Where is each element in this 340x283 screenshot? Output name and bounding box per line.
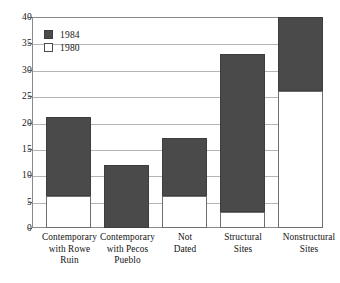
bar-segment-1984[interactable]: [46, 117, 91, 196]
bar-group-contemporary-pecos-pueblo[interactable]: [104, 165, 149, 228]
bar-segment-1980[interactable]: [278, 91, 323, 228]
bar-segment-1980[interactable]: [162, 196, 207, 228]
bar-segment-1980[interactable]: [46, 196, 91, 228]
legend-label-1980: 1980: [60, 43, 80, 53]
legend-label-1984: 1984: [60, 30, 80, 40]
legend-item-1980[interactable]: 1980: [44, 42, 80, 53]
bar-segment-1984[interactable]: [162, 138, 207, 196]
bar-group-not-dated[interactable]: [162, 138, 207, 228]
legend-swatch-1984-icon: [44, 30, 53, 39]
legend-swatch-1980-icon: [44, 43, 53, 52]
bar-segment-1980[interactable]: [220, 212, 265, 228]
y-tick-mark-0: [28, 228, 32, 229]
x-label-not-dated: Not Dated: [154, 232, 216, 255]
bar-group-structural-sites[interactable]: [220, 54, 265, 228]
bar-segment-1984[interactable]: [278, 17, 323, 91]
x-label-structural-sites: Structural Sites: [210, 232, 276, 255]
y-axis: 40 35 30 25 20 15 10 5 0: [0, 17, 32, 228]
bar-segment-1984[interactable]: [104, 165, 149, 228]
bar-segment-1984[interactable]: [220, 54, 265, 212]
legend: 1984 1980: [44, 29, 80, 53]
x-axis-labels: Contemporary with Rowe Ruin Contemporary…: [32, 232, 322, 280]
legend-item-1984[interactable]: 1984: [44, 29, 80, 40]
x-label-nonstructural-sites: Nonstructural Sites: [268, 232, 340, 255]
bar-group-nonstructural-sites[interactable]: [278, 17, 323, 228]
bar-group-contemporary-rowe-ruin[interactable]: [46, 117, 91, 228]
